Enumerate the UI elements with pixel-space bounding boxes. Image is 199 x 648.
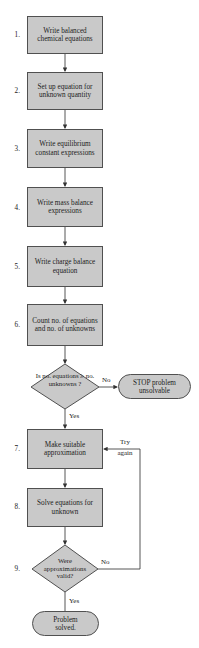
step-number: 7.	[6, 445, 20, 453]
step-number: 6.	[6, 321, 20, 329]
step-number: 4.	[6, 204, 20, 212]
step-box: Write charge balance equation	[27, 246, 103, 287]
step-number: 8.	[6, 503, 20, 511]
step-number: 3.	[6, 145, 20, 153]
yes-label: Yes	[69, 412, 79, 420]
no-label: No	[101, 558, 110, 566]
solved-terminal: Problem solved.	[32, 611, 99, 636]
step-number: 9.	[6, 565, 20, 573]
loop-label: Try again	[114, 437, 136, 459]
yes-label: Yes	[69, 597, 79, 605]
step-box: Solve equations for unknown	[27, 488, 103, 527]
step-box: Write mass balance expressions	[27, 187, 103, 227]
step-number: 1.	[6, 31, 20, 39]
decision-text: Is no. equations ≥ no. unknowns ?	[34, 372, 96, 387]
no-label: No	[102, 376, 111, 384]
stop-terminal: STOP problem unsolvable	[118, 374, 191, 399]
step-number: 5.	[6, 263, 20, 271]
step-number: 2.	[6, 87, 20, 95]
step-box: Write equilibrium constant expressions	[27, 129, 103, 168]
decision-text: Were approximations valid?	[38, 557, 92, 580]
step-box: Count no. of equations and no. of unknow…	[27, 304, 103, 346]
step-box: Set up equation for unknown quantity	[27, 72, 103, 110]
step-box: Make suitable approximation	[27, 429, 103, 469]
flowchart: 1. Write balanced chemical equations 2. …	[0, 0, 199, 648]
step-box: Write balanced chemical equations	[27, 16, 103, 54]
